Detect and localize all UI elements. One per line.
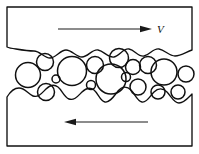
wear-particle — [151, 85, 165, 99]
wear-particle — [171, 85, 185, 99]
wear-particle — [38, 84, 55, 101]
wear-schematic-svg: V — [0, 0, 199, 154]
figure-canvas: V — [0, 0, 199, 154]
wear-particle — [52, 75, 60, 83]
wear-particle — [58, 57, 87, 86]
upper-counterface-outline — [7, 7, 192, 58]
wear-particle — [37, 54, 54, 71]
wear-particle — [122, 73, 131, 82]
wear-particle — [87, 81, 96, 90]
wear-particle — [130, 79, 146, 95]
wear-particle — [178, 66, 194, 82]
wear-particle — [151, 59, 177, 85]
wear-particle — [16, 63, 41, 88]
